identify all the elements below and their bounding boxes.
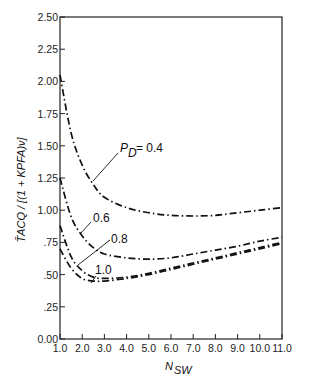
y-tick-label: 1.50	[38, 140, 59, 152]
y-tick-label: 2.50	[38, 11, 59, 23]
y-tick-label: 2.00	[38, 75, 59, 87]
y-tick-label: .50	[43, 269, 58, 281]
label-text-1.0: 1.0	[95, 263, 112, 277]
svg-text:T̄ACQ / [(1 + KPFA)ν]: T̄ACQ / [(1 + KPFA)ν]	[15, 136, 27, 242]
label-text-0.8: 0.8	[111, 232, 128, 246]
x-tick-label: 6.0	[164, 342, 179, 354]
x-tick-label: 4.0	[119, 342, 134, 354]
x-tick-label: 2.0	[75, 342, 90, 354]
x-tick-label: 9.0	[230, 342, 245, 354]
y-tick-label: .25	[43, 301, 58, 313]
x-axis-title: N SW	[165, 360, 193, 376]
x-tick-label: 3.0	[97, 342, 112, 354]
x-tick-label: 1.0	[53, 342, 68, 354]
y-axis-ticks: 0.00.25.50.751.001.251.501.752.002.252.5…	[38, 11, 65, 345]
pd-symbol: P	[120, 141, 128, 155]
y-tick-label: 2.25	[38, 43, 59, 55]
label-text-0.6: 0.6	[93, 211, 110, 225]
x-tick-label: 8.0	[208, 342, 223, 354]
curves	[60, 75, 282, 281]
x-tick-label: 5.0	[141, 342, 156, 354]
x-tick-label: 10.0	[250, 342, 271, 354]
svg-text:N: N	[165, 360, 173, 372]
x-tick-label: 7.0	[186, 342, 201, 354]
label-0.6: 0.6	[80, 211, 110, 234]
label-0.8: 0.8	[78, 232, 128, 265]
y-axis-title: T̄ACQ / [(1 + KPFA)ν]	[15, 136, 27, 242]
x-axis-ticks: 1.02.03.04.05.06.07.08.09.010.011.0	[53, 334, 292, 354]
curve-0.4	[60, 75, 282, 216]
y-tick-label: 1.00	[38, 204, 59, 216]
plot-frame	[60, 17, 282, 339]
label-pd-0.4: P D = 0.4	[93, 141, 163, 181]
svg-text:SW: SW	[174, 364, 193, 376]
pd-value: = 0.4	[136, 141, 163, 155]
chart: 0.00.25.50.751.001.251.501.752.002.252.5…	[0, 0, 309, 380]
x-tick-label: 11.0	[272, 342, 292, 354]
y-tick-label: .75	[43, 236, 58, 248]
y-tick-label: 1.25	[38, 172, 59, 184]
y-tick-label: 1.75	[38, 108, 59, 120]
